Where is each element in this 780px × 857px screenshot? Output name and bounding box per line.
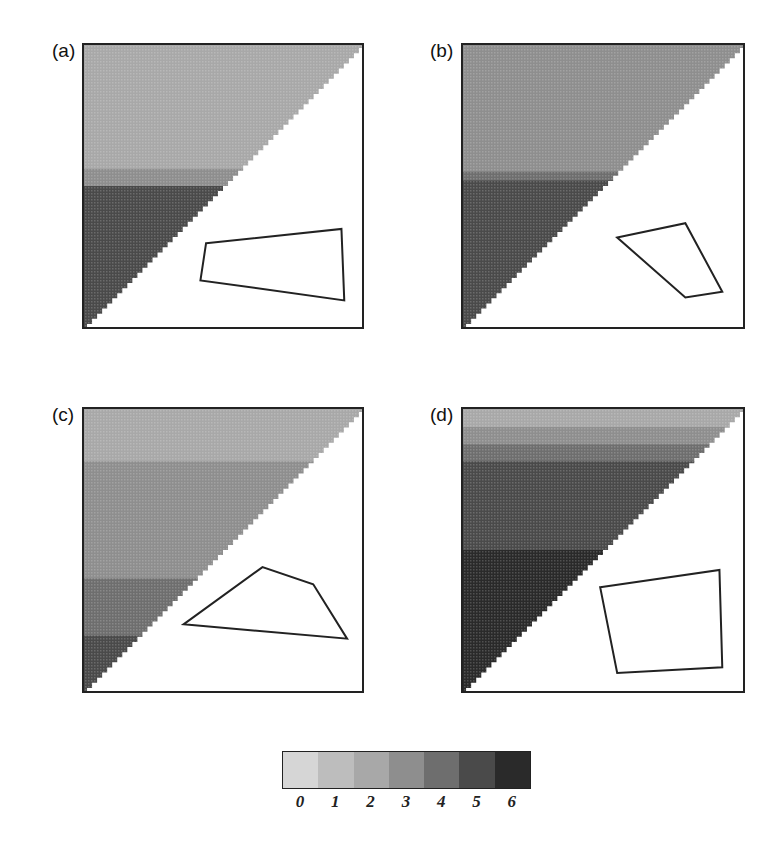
colorbar-tick-label: 3	[402, 792, 411, 812]
colorbar-tick-label: 0	[296, 792, 305, 812]
panel-a	[82, 43, 364, 329]
colorbar-tick-label: 2	[366, 792, 375, 812]
panel-c	[82, 407, 364, 693]
colorbar-swatch	[283, 752, 318, 788]
region-polygon	[184, 567, 348, 639]
colorbar-ticks: 0123456	[282, 792, 529, 814]
colorbar-swatch	[318, 752, 353, 788]
panel-c-label: (c)	[52, 404, 74, 426]
panel-b	[461, 43, 743, 329]
region-polygon	[200, 229, 344, 301]
panel-b-label: (b)	[430, 40, 453, 62]
colorbar-tick-label: 4	[437, 792, 446, 812]
colorbar	[282, 751, 531, 789]
panel-a-label: (a)	[52, 40, 75, 62]
colorbar-swatch	[459, 752, 494, 788]
panel-b-plot	[461, 43, 745, 329]
colorbar-swatch	[424, 752, 459, 788]
colorbar-swatch	[389, 752, 424, 788]
panel-c-plot	[82, 407, 364, 693]
panel-d	[461, 407, 743, 693]
region-polygon	[600, 570, 722, 673]
colorbar-tick-label: 1	[331, 792, 340, 812]
panel-d-label: (d)	[430, 404, 453, 426]
colorbar-swatch	[354, 752, 389, 788]
colorbar-tick-label: 5	[472, 792, 481, 812]
colorbar-swatch	[495, 752, 530, 788]
panel-d-plot	[461, 407, 745, 693]
panel-a-plot	[82, 43, 364, 329]
colorbar-tick-label: 6	[508, 792, 517, 812]
region-polygon	[617, 223, 722, 297]
